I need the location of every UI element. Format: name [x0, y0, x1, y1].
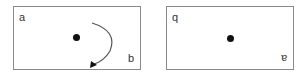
right-panel: q a [166, 6, 294, 70]
label-q: q [172, 12, 178, 23]
label-a-rotated: a [281, 53, 287, 64]
label-b: b [128, 53, 134, 64]
center-dot [227, 35, 234, 42]
rotated-a-glyph: a [281, 53, 287, 64]
left-panel: a b [13, 6, 141, 70]
clockwise-rotation-arrow-icon [14, 7, 142, 71]
